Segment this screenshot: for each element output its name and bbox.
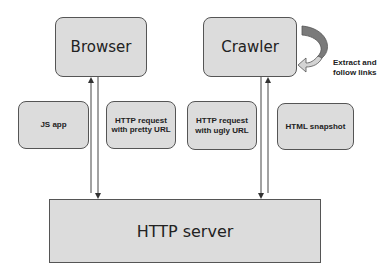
js-app-node: JS app [18,101,89,149]
js-app-label: JS app [40,120,66,129]
crawler-node: Crawler [203,17,297,77]
browser-label: Browser [71,38,132,56]
ugly-request-label: HTTP request with ugly URL [190,116,254,134]
crawler-label: Crawler [221,38,279,56]
ugly-request-node: HTTP request with ugly URL [187,101,257,150]
http-server-node: HTTP server [49,199,321,263]
diagram-canvas: Browser Crawler Extract and follow links… [0,0,390,276]
annotation-line-1: Extract and [333,58,377,68]
html-snapshot-node: HTML snapshot [277,103,354,150]
http-server-label: HTTP server [137,222,234,241]
browser-node: Browser [55,17,147,77]
loop-arrow-icon [298,26,328,72]
pretty-request-label: HTTP request with pretty URL [109,116,173,134]
crawler-loop-annotation: Extract and follow links [333,58,377,77]
pretty-request-node: HTTP request with pretty URL [106,101,176,149]
html-snapshot-label: HTML snapshot [286,122,346,131]
annotation-line-2: follow links [333,68,377,78]
